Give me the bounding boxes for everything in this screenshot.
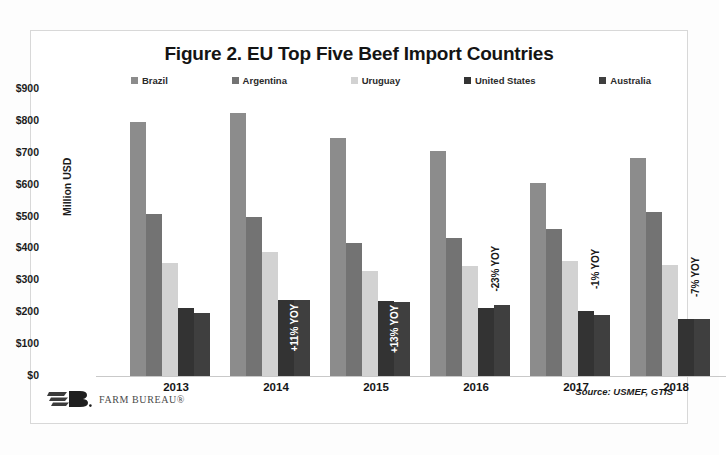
bars (326, 89, 426, 376)
bar-united-states-2017[interactable] (578, 311, 594, 376)
bar-argentina-2013[interactable] (146, 214, 162, 376)
page-title: Figure 2. EU Top Five Beef Import Countr… (31, 43, 687, 65)
bar-australia-2013[interactable] (194, 313, 210, 376)
legend-swatch-icon (599, 77, 606, 84)
chart-legend: BrazilArgentinaUruguayUnited StatesAustr… (131, 75, 651, 86)
yoy-annotation-2014: +11% YOY (289, 304, 300, 351)
bar-argentina-2014[interactable] (246, 217, 262, 376)
bar-uruguay-2018[interactable] (662, 265, 678, 376)
bar-brazil-2018[interactable] (630, 158, 646, 376)
yoy-annotation-2015: +13% YOY (389, 305, 400, 353)
bar-uruguay-2014[interactable] (262, 252, 278, 376)
x-axis-tick-label: 2016 (426, 381, 526, 393)
y-axis-tick-label: $700 (0, 146, 39, 158)
chart-frame: Figure 2. EU Top Five Beef Import Countr… (30, 30, 688, 424)
bar-australia-2017[interactable] (594, 315, 610, 376)
bar-group-2015: +13% YOY2015 (326, 89, 426, 376)
legend-swatch-icon (351, 77, 358, 84)
bars (426, 89, 526, 376)
y-axis-label: Million USD (61, 158, 73, 216)
y-axis-tick-label: $100 (0, 337, 39, 349)
legend-item-argentina[interactable]: Argentina (232, 75, 287, 86)
legend-label: Uruguay (362, 75, 401, 86)
legend-item-brazil[interactable]: Brazil (131, 75, 168, 86)
bars (226, 89, 326, 376)
y-axis-tick-label: $900 (0, 82, 39, 94)
legend-swatch-icon (232, 77, 239, 84)
yoy-annotation-2016: -23% YOY (490, 246, 501, 291)
yoy-annotation-2017: -1% YOY (590, 249, 601, 289)
bar-group-2017: -1% YOY2017 (526, 89, 626, 376)
legend-item-uruguay[interactable]: Uruguay (351, 75, 401, 86)
bar-group-2016: -23% YOY2016 (426, 89, 526, 376)
source-note: Source: USMEF, GTIS (575, 386, 673, 397)
y-axis-tick-label: $300 (0, 273, 39, 285)
bar-united-states-2016[interactable] (478, 308, 494, 376)
bar-united-states-2013[interactable] (178, 308, 194, 376)
bar-group-2013: 2013 (126, 89, 226, 376)
legend-label: Brazil (142, 75, 168, 86)
bar-argentina-2016[interactable] (446, 238, 462, 376)
bar-groups: 2013+11% YOY2014+13% YOY2015-23% YOY2016… (126, 89, 726, 376)
brand-label: FARM BUREAU® (99, 394, 185, 405)
bar-brazil-2014[interactable] (230, 113, 246, 376)
y-axis-tick-label: $400 (0, 241, 39, 253)
bar-argentina-2015[interactable] (346, 243, 362, 376)
bar-uruguay-2017[interactable] (562, 261, 578, 376)
y-axis-tick-label: $200 (0, 305, 39, 317)
bar-united-states-2018[interactable] (678, 319, 694, 376)
bar-argentina-2018[interactable] (646, 212, 662, 376)
bar-brazil-2013[interactable] (130, 122, 146, 376)
legend-label: Argentina (243, 75, 287, 86)
bar-brazil-2017[interactable] (530, 183, 546, 376)
x-axis-line (96, 376, 726, 377)
legend-item-australia[interactable]: Australia (599, 75, 651, 86)
legend-swatch-icon (131, 77, 138, 84)
bar-australia-2016[interactable] (494, 305, 510, 376)
y-axis-tick-label: $600 (0, 178, 39, 190)
x-axis-tick-label: 2014 (226, 381, 326, 393)
bars (526, 89, 626, 376)
farm-bureau-logo: FARM BUREAU® (47, 389, 185, 409)
y-axis-tick-label: $800 (0, 114, 39, 126)
bar-argentina-2017[interactable] (546, 229, 562, 376)
bar-group-2018: -7% YOY2018 (626, 89, 726, 376)
bar-uruguay-2013[interactable] (162, 263, 178, 376)
bars (126, 89, 226, 376)
bar-uruguay-2015[interactable] (362, 271, 378, 376)
bar-australia-2018[interactable] (694, 319, 710, 376)
legend-item-united-states[interactable]: United States (464, 75, 536, 86)
bar-group-2014: +11% YOY2014 (226, 89, 326, 376)
x-axis-tick-label: 2015 (326, 381, 426, 393)
bar-uruguay-2016[interactable] (462, 266, 478, 376)
legend-label: Australia (610, 75, 651, 86)
legend-swatch-icon (464, 77, 471, 84)
bars (626, 89, 726, 376)
bar-brazil-2015[interactable] (330, 138, 346, 376)
fb-logo-icon (47, 389, 93, 409)
legend-label: United States (475, 75, 536, 86)
yoy-annotation-2018: -7% YOY (690, 257, 701, 297)
y-axis-tick-label: $500 (0, 210, 39, 222)
bar-brazil-2016[interactable] (430, 151, 446, 376)
y-axis-tick-label: $0 (0, 369, 39, 381)
